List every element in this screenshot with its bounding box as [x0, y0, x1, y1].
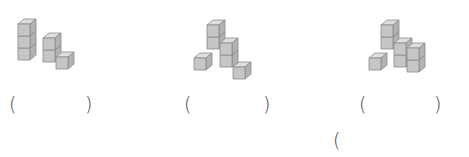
cube-front-face — [207, 37, 219, 49]
cube-front-face — [394, 43, 406, 55]
cube — [43, 33, 61, 50]
cube-front-face — [233, 67, 245, 79]
figure-2-open-paren: ( — [184, 94, 191, 114]
figure-1-open-paren: ( — [9, 94, 16, 114]
extra-open-paren: ( — [333, 130, 340, 150]
cube-front-face — [43, 38, 55, 50]
cube-front-face — [220, 43, 232, 55]
figure-3-answer-field[interactable] — [373, 94, 431, 114]
figure-2-close-paren: ) — [263, 94, 270, 114]
cube — [369, 53, 387, 70]
cube-front-face — [207, 25, 219, 37]
cube-front-face — [407, 48, 419, 60]
cube — [407, 43, 425, 60]
cube-front-face — [18, 24, 30, 36]
cube-front-face — [18, 36, 30, 48]
cube-front-face — [194, 58, 206, 70]
cube-front-face — [43, 50, 55, 62]
cube — [381, 20, 399, 37]
figure-1-close-paren: ) — [85, 94, 92, 114]
cube-front-face — [18, 48, 30, 60]
figure-3-close-paren: ) — [434, 94, 441, 114]
cube — [220, 38, 238, 55]
cube-front-face — [381, 37, 393, 49]
figure-1-cube-stack — [18, 19, 74, 69]
figure-2-answer-field[interactable] — [198, 94, 260, 114]
cube — [194, 53, 212, 70]
figure-1-answer-field[interactable] — [24, 94, 82, 114]
worksheet: ( ) ( ) ( ) ( — [0, 0, 469, 157]
cube-front-face — [407, 60, 419, 72]
cube-front-face — [394, 55, 406, 67]
cube — [18, 19, 36, 36]
cube-front-face — [56, 57, 68, 69]
cube-figures — [0, 0, 469, 157]
cube — [56, 52, 74, 69]
figure-2-cube-stack — [194, 20, 251, 79]
cube-front-face — [369, 58, 381, 70]
cube — [207, 20, 225, 37]
cube-front-face — [381, 25, 393, 37]
cube — [233, 62, 251, 79]
cube-front-face — [220, 55, 232, 67]
figure-3-cube-stack — [369, 20, 425, 72]
figure-3-open-paren: ( — [359, 94, 366, 114]
